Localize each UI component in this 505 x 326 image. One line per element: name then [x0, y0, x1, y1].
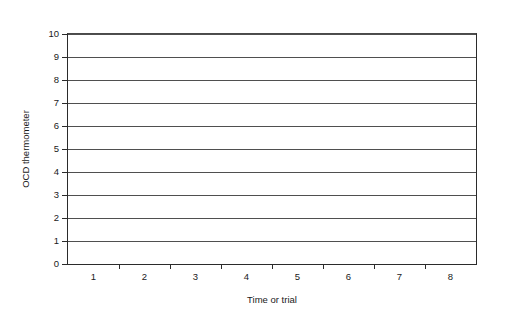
y-axis-tick [62, 218, 68, 219]
x-axis-tick-label: 6 [346, 272, 351, 282]
y-axis-tick [62, 126, 68, 127]
y-axis-tick-label: 7 [54, 98, 59, 108]
gridline [68, 218, 476, 219]
y-axis-tick [62, 34, 68, 35]
y-axis-tick [62, 149, 68, 150]
x-axis-tick [425, 264, 426, 269]
gridline [68, 34, 476, 35]
y-axis-tick-label: 8 [54, 75, 59, 85]
x-axis-tick [170, 264, 171, 269]
y-axis-tick [62, 264, 68, 265]
x-axis-title: Time or trial [247, 295, 297, 305]
x-axis-tick-label: 2 [142, 272, 147, 282]
x-axis-tick-label: 7 [397, 272, 402, 282]
gridline [68, 172, 476, 173]
x-axis-tick [119, 264, 120, 269]
x-axis-tick-label: 5 [295, 272, 300, 282]
gridline [68, 80, 476, 81]
x-axis-tick-label: 3 [193, 272, 198, 282]
y-axis-tick [62, 103, 68, 104]
y-axis-tick [62, 57, 68, 58]
plot-area: 01234567891012345678 [67, 33, 477, 265]
y-axis-tick-label: 1 [54, 236, 59, 246]
gridline [68, 57, 476, 58]
y-axis-tick-label: 4 [54, 167, 59, 177]
x-axis-tick [323, 264, 324, 269]
x-axis-tick [374, 264, 375, 269]
y-axis-tick [62, 195, 68, 196]
gridline [68, 126, 476, 127]
x-axis-tick-label: 1 [91, 272, 96, 282]
x-axis-tick-label: 8 [448, 272, 453, 282]
gridline [68, 149, 476, 150]
x-axis-tick-label: 4 [244, 272, 249, 282]
gridline [68, 103, 476, 104]
gridline [68, 241, 476, 242]
gridline [68, 195, 476, 196]
y-axis-tick-label: 5 [54, 144, 59, 154]
y-axis-tick [62, 241, 68, 242]
y-axis-tick [62, 80, 68, 81]
chart-figure: OCD thermometer 01234567891012345678 Tim… [0, 0, 505, 326]
y-axis-tick-label: 3 [54, 190, 59, 200]
x-axis-tick [272, 264, 273, 269]
y-axis-tick-label: 9 [54, 52, 59, 62]
y-axis-tick-label: 0 [54, 259, 59, 269]
y-axis-tick-label: 10 [48, 29, 59, 39]
y-axis-tick-label: 2 [54, 213, 59, 223]
y-axis-tick [62, 172, 68, 173]
y-axis-title: OCD thermometer [21, 110, 31, 188]
y-axis-tick-label: 6 [54, 121, 59, 131]
x-axis-tick [221, 264, 222, 269]
